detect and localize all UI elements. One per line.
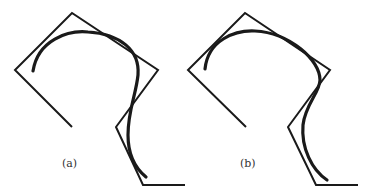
- diagram-canvas: (a) (b): [0, 0, 370, 194]
- panel-label-b: (b): [240, 157, 256, 170]
- control-polygon-a: [15, 13, 185, 185]
- panel-b: (b): [188, 13, 358, 185]
- panel-label-a: (a): [62, 157, 77, 170]
- control-polygon-b: [188, 13, 358, 185]
- panel-a: (a): [15, 13, 185, 185]
